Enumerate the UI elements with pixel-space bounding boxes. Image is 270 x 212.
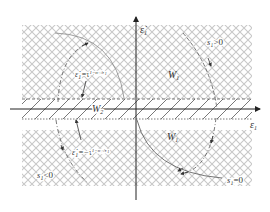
x-axis-label: ε1 (250, 119, 257, 131)
label-s1-zero: s1=0 (227, 175, 244, 186)
phase-plane-diagram: ε̇1 ε1 W1 W1 W2 ε̇1=τ1−m1/n1 ε̇1=−τ1−m1/… (0, 0, 270, 212)
label-s1-positive: s1>0 (207, 37, 224, 48)
label-s1-negative: s1<0 (37, 170, 54, 181)
